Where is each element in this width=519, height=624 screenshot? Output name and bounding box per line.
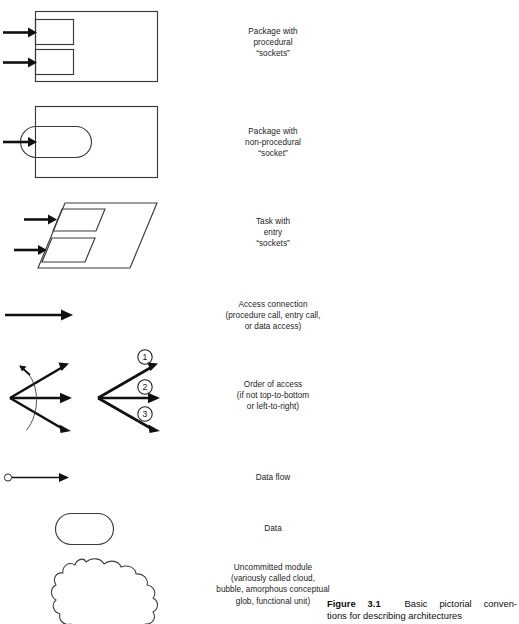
caption-data-flow: Data flow bbox=[193, 472, 353, 483]
caption-line: or data access) bbox=[182, 321, 364, 332]
caption-line: or left-to-right) bbox=[182, 401, 364, 412]
figure-page: 1 2 3 Package with proce bbox=[0, 0, 519, 624]
caption-line: Data bbox=[193, 523, 353, 534]
caption-order-of-access: Order of access (if not top-to-bottom or… bbox=[182, 379, 364, 413]
order-marker-1: 1 bbox=[138, 350, 152, 364]
fan-arrow-mid-left bbox=[10, 393, 72, 403]
cloud-outline bbox=[52, 559, 158, 624]
symbol-package-non-procedural bbox=[3, 107, 158, 178]
caption-line: Package with bbox=[193, 26, 353, 37]
inbound-arrow-1 bbox=[3, 28, 37, 38]
order-marker-3: 3 bbox=[138, 407, 152, 421]
caption-data: Data bbox=[193, 523, 353, 534]
inbound-arrow-2 bbox=[3, 58, 37, 68]
data-flow-tail-circle bbox=[4, 474, 11, 481]
symbol-task-entry bbox=[14, 203, 157, 268]
order-marker-3-label: 3 bbox=[143, 409, 148, 419]
symbol-order-fan-unnumbered bbox=[10, 363, 72, 434]
caption-line: Access connection bbox=[182, 299, 364, 310]
caption-line: Package with bbox=[193, 126, 353, 137]
package-outer-rect-2 bbox=[36, 107, 158, 178]
figure-number: Figure 3.1 bbox=[327, 598, 381, 609]
symbol-data bbox=[56, 514, 114, 545]
order-marker-1-label: 1 bbox=[143, 352, 148, 362]
caption-access-connection: Access connection (procedure call, entry… bbox=[182, 299, 364, 333]
caption-line: “socket” bbox=[193, 148, 353, 159]
caption-line: “sockets” bbox=[193, 238, 353, 249]
fan-arrow-mid-right bbox=[98, 393, 160, 403]
caption-line: (procedure call, entry call, bbox=[182, 310, 364, 321]
order-sweep-arrowhead bbox=[20, 366, 31, 376]
caption-line: Task with bbox=[193, 216, 353, 227]
data-rounded-rect bbox=[56, 514, 114, 545]
caption-line: procedural bbox=[193, 37, 353, 48]
caption-line: “sockets” bbox=[193, 48, 353, 59]
caption-line: non-procedural bbox=[193, 137, 353, 148]
caption-line: Uncommitted module bbox=[178, 562, 368, 573]
inbound-arrow-3 bbox=[3, 137, 37, 147]
figure-caption-line-1: Basic pictorial conven- bbox=[405, 598, 517, 609]
caption-line: (variously called cloud, bbox=[178, 573, 368, 584]
package-outer-rect bbox=[36, 12, 158, 82]
caption-task-entry: Task with entry “sockets” bbox=[193, 216, 353, 250]
symbol-data-flow bbox=[4, 473, 69, 482]
order-marker-2-label: 2 bbox=[143, 382, 148, 392]
socket-rect-1 bbox=[36, 20, 74, 45]
order-sweep-arc bbox=[26, 371, 37, 430]
symbol-order-fan-numbered: 1 2 3 bbox=[98, 350, 160, 433]
caption-package-procedural: Package with procedural “sockets” bbox=[193, 26, 353, 60]
figure-caption: Figure 3.1 Basic pictorial conven- tions… bbox=[327, 598, 517, 623]
caption-package-non-procedural: Package with non-procedural “socket” bbox=[193, 126, 353, 160]
figure-caption-line-2: tions for describing architectures bbox=[327, 610, 517, 622]
caption-line: Order of access bbox=[182, 379, 364, 390]
symbol-access-connection bbox=[5, 310, 73, 321]
fan-arrow-down-left bbox=[10, 398, 71, 433]
socket-rect-2 bbox=[36, 50, 74, 75]
caption-line: bubble, amorphous conceptual bbox=[178, 584, 368, 595]
symbol-uncommitted-module bbox=[52, 559, 158, 624]
fan-arrow-down-right bbox=[98, 398, 160, 433]
inbound-arrow-5 bbox=[14, 245, 47, 255]
caption-line: entry bbox=[193, 227, 353, 238]
order-marker-2: 2 bbox=[138, 380, 152, 394]
caption-line: Data flow bbox=[193, 472, 353, 483]
task-parallelogram bbox=[38, 203, 157, 268]
symbol-package-procedural bbox=[3, 12, 158, 82]
inbound-arrow-4 bbox=[24, 215, 57, 225]
entry-socket-1 bbox=[53, 209, 105, 231]
caption-line: (if not top-to-bottom bbox=[182, 390, 364, 401]
entry-socket-2 bbox=[42, 238, 95, 262]
fan-arrow-up-left bbox=[10, 363, 69, 399]
